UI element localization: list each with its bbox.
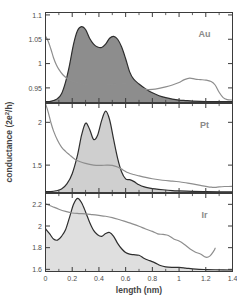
x-tick-label: 0.8	[147, 275, 157, 282]
y-tick-label: 2	[38, 119, 42, 126]
y-tick-label: 2	[38, 223, 42, 230]
x-axis: 00.20.40.60.811.21.4length (nm)	[44, 275, 237, 295]
y-tick-label: 1.1	[32, 12, 42, 19]
panel-content	[46, 104, 233, 193]
y-tick-label: 1	[38, 60, 42, 67]
x-tick-label: 0	[44, 275, 48, 282]
plot-canvas: 0.9511.051.1Au1.52Pt1.61.822.2Ir00.20.40…	[0, 0, 237, 305]
x-tick-label: 1	[177, 275, 181, 282]
y-tick-label: 1.5	[32, 162, 42, 169]
x-tick-label: 0.4	[94, 275, 104, 282]
y-tick-label: 2.2	[32, 201, 42, 208]
panel-label-ir: Ir	[201, 210, 208, 220]
panel-au: 0.9511.051.1Au	[28, 12, 232, 103]
y-tick-label: 1.8	[32, 244, 42, 251]
y-axis-title-main: conductance (2e	[4, 115, 14, 182]
x-tick-label: 1.4	[228, 275, 237, 282]
y-tick-label: 1.05	[28, 36, 42, 43]
x-axis-title: length (nm)	[116, 285, 162, 295]
y-axis-title-tail: /h)	[4, 101, 14, 112]
y-axis-title-text: conductance (2e2/h)	[4, 101, 14, 182]
panel-label-pt: Pt	[200, 120, 209, 130]
panel-pt: 1.52Pt	[32, 104, 232, 193]
x-tick-label: 0.6	[121, 275, 131, 282]
panel-ir: 1.61.822.2Ir	[32, 194, 232, 273]
conductance-length-figure: 0.9511.051.1Au1.52Pt1.61.822.2Ir00.20.40…	[0, 0, 237, 305]
y-tick-label: 1.6	[32, 266, 42, 273]
y-tick-label: 0.95	[28, 85, 42, 92]
panel-label-au: Au	[199, 29, 211, 39]
x-tick-label: 0.2	[67, 275, 77, 282]
x-tick-label: 1.2	[201, 275, 211, 282]
y-axis-title: conductance (2e2/h)	[4, 101, 14, 182]
